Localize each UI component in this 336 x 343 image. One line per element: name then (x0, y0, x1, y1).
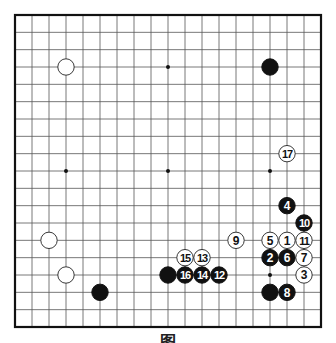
white-stone: 17 (279, 145, 295, 161)
black-stone: 16 (177, 267, 193, 283)
white-stone: 5 (262, 232, 278, 248)
move-number: 11 (299, 235, 310, 247)
stone-circle (41, 232, 57, 248)
black-stone: 8 (279, 284, 295, 300)
black-stone: 6 (279, 249, 295, 265)
white-stone (58, 267, 74, 283)
stones: 1234567891011121314151617 (41, 59, 312, 301)
move-number: 2 (267, 251, 274, 265)
star-point (166, 65, 170, 69)
stone-circle (58, 267, 74, 283)
stone-circle (92, 284, 108, 300)
black-stone (92, 284, 108, 300)
white-stone: 7 (296, 249, 312, 265)
move-number: 1 (284, 234, 291, 248)
stone-circle (58, 59, 74, 75)
black-stone: 4 (279, 197, 295, 213)
white-stone: 3 (296, 267, 312, 283)
black-stone (262, 284, 278, 300)
white-stone (58, 59, 74, 75)
move-number: 8 (284, 286, 291, 300)
white-stone: 15 (177, 249, 193, 265)
move-number: 6 (284, 251, 291, 265)
go-board: 1234567891011121314151617 (0, 0, 336, 343)
move-number: 5 (267, 234, 274, 248)
white-stone: 13 (194, 249, 210, 265)
black-stone: 12 (211, 267, 227, 283)
move-number: 3 (301, 268, 308, 282)
star-point (268, 169, 272, 173)
stone-circle (160, 267, 176, 283)
white-stone: 9 (228, 232, 244, 248)
stone-circle (262, 59, 278, 75)
move-number: 16 (180, 269, 191, 281)
move-number: 15 (180, 252, 191, 264)
move-number: 17 (282, 148, 293, 160)
black-stone (160, 267, 176, 283)
black-stone (262, 59, 278, 75)
white-stone: 1 (279, 232, 295, 248)
move-number: 13 (197, 252, 208, 264)
black-stone: 14 (194, 267, 210, 283)
move-number: 12 (214, 269, 225, 281)
stone-circle (262, 284, 278, 300)
star-point (166, 169, 170, 173)
move-number: 7 (301, 251, 308, 265)
star-point (268, 273, 272, 277)
black-stone: 2 (262, 249, 278, 265)
white-stone: 11 (296, 232, 312, 248)
move-number: 9 (233, 234, 240, 248)
diagram-caption: 图 (0, 334, 336, 343)
move-number: 4 (284, 199, 291, 213)
white-stone (41, 232, 57, 248)
black-stone: 10 (296, 215, 312, 231)
move-number: 10 (299, 217, 310, 229)
star-point (64, 169, 68, 173)
